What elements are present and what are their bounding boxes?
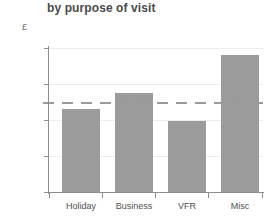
x-tick-2 <box>155 193 156 198</box>
gridline-800 <box>49 48 263 49</box>
x-label-misc: Misc <box>231 201 250 211</box>
x-label-holiday: Holiday <box>66 201 96 211</box>
x-tick-end <box>262 193 263 198</box>
average-reference-line <box>43 102 264 104</box>
bar-misc <box>221 55 259 192</box>
chart-title: by purpose of visit <box>47 1 156 15</box>
y-tick-400 <box>44 120 49 121</box>
x-tick-3 <box>208 193 209 198</box>
x-tick-start <box>49 193 50 198</box>
y-tick-600 <box>44 84 49 85</box>
y-axis-unit-label: £ <box>22 22 27 32</box>
bar-holiday <box>62 109 100 192</box>
plot-area <box>49 48 263 192</box>
y-tick-800 <box>44 48 49 49</box>
x-label-vfr: VFR <box>178 201 196 211</box>
bar-chart: by purpose of visit £ 800 600 400 200 0 … <box>0 0 274 224</box>
bar-vfr <box>168 121 206 192</box>
x-label-business: Business <box>116 201 153 211</box>
bar-business <box>115 93 153 192</box>
x-tick-1 <box>102 193 103 198</box>
y-tick-200 <box>44 156 49 157</box>
x-axis-line <box>48 192 264 193</box>
